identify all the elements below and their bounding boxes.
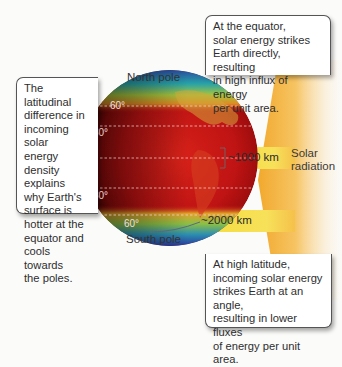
north-pole-label: North pole (127, 71, 180, 83)
high-latitude-beam-label: ~2000 km (201, 214, 252, 226)
latitude-label-60n: 60° (110, 100, 125, 111)
callout-high-latitude: At high latitude, incoming solar energy … (205, 254, 332, 328)
callout-latitudinal-difference: The latitudinal difference in incoming s… (16, 77, 98, 214)
south-pole-label: South pole (126, 233, 181, 245)
latitude-label-60s: 60° (124, 218, 139, 229)
callout-latitudinal-text: The latitudinal difference in incoming s… (24, 82, 92, 286)
callout-equator-text: At the equator, solar energy strikes Ear… (213, 20, 324, 115)
solar-radiation-label: Solar radiation (291, 147, 335, 173)
callout-high-latitude-text: At high latitude, incoming solar energy … (213, 258, 325, 367)
callout-equator: At the equator, solar energy strikes Ear… (205, 15, 331, 75)
equator-beam-label: ~1000 km (228, 151, 279, 163)
